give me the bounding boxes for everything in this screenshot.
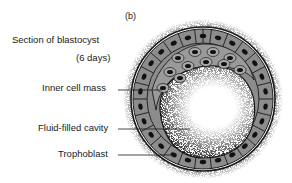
label-trophoblast: Trophoblast [58,149,108,159]
panel-label: (b) [125,12,136,21]
label-fluid-filled-cavity: Fluid-filled cavity [38,123,108,133]
label-inner-cell-mass: Inner cell mass [42,83,106,93]
figure-subtitle: (6 days) [76,53,110,63]
figure-title: Section of blastocyst [12,35,99,45]
